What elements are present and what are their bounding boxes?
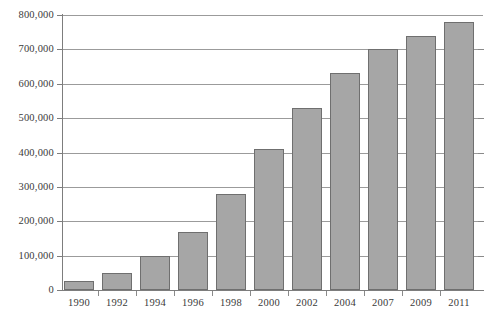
x-tick-4 <box>212 291 213 296</box>
bar-2011 <box>444 22 474 290</box>
y-tick-300000 <box>57 187 63 188</box>
bar-1998 <box>216 194 246 290</box>
y-tick-700000 <box>57 49 63 50</box>
y-axis-label-200000: 200,000 <box>0 216 54 227</box>
y-tick-right-400000 <box>478 153 484 154</box>
x-tick-10 <box>440 291 441 296</box>
bar-1990 <box>64 281 94 290</box>
bar-1994 <box>140 256 170 290</box>
y-tick-right-100000 <box>478 256 484 257</box>
y-tick-400000 <box>57 153 63 154</box>
x-axis-label-2011: 2011 <box>432 297 486 309</box>
y-axis-label-500000: 500,000 <box>0 113 54 124</box>
bar-2002 <box>292 108 322 290</box>
bar-2000 <box>254 149 284 290</box>
y-tick-800000 <box>57 15 63 16</box>
bar-2009 <box>406 36 436 290</box>
y-axis-label-0: 0 <box>0 285 54 296</box>
y-axis-label-600000: 600,000 <box>0 79 54 90</box>
x-tick-5 <box>250 291 251 296</box>
bar-2007 <box>368 49 398 290</box>
y-tick-right-600000 <box>478 84 484 85</box>
y-axis-label-100000: 100,000 <box>0 251 54 262</box>
y-tick-right-700000 <box>478 49 484 50</box>
bar-1996 <box>178 232 208 290</box>
y-tick-right-200000 <box>478 221 484 222</box>
y-axis-label-300000: 300,000 <box>0 182 54 193</box>
y-tick-100000 <box>57 256 63 257</box>
plot-area <box>62 15 483 290</box>
y-axis-label-700000: 700,000 <box>0 44 54 55</box>
x-tick-9 <box>402 291 403 296</box>
y-tick-right-300000 <box>478 187 484 188</box>
y-tick-600000 <box>57 84 63 85</box>
bar-2004 <box>330 73 360 290</box>
bar-chart-figure: 800,000 700,000 600,000 500,000 400,000 … <box>0 0 491 318</box>
x-tick-1 <box>98 291 99 296</box>
bar-1992 <box>102 273 132 290</box>
x-axis-line <box>62 290 484 291</box>
y-tick-right-500000 <box>478 118 484 119</box>
x-tick-3 <box>174 291 175 296</box>
y-tick-200000 <box>57 221 63 222</box>
y-axis-label-400000: 400,000 <box>0 148 54 159</box>
y-tick-0 <box>57 290 63 291</box>
y-axis-label-800000: 800,000 <box>0 10 54 21</box>
y-tick-500000 <box>57 118 63 119</box>
x-tick-2 <box>136 291 137 296</box>
x-tick-8 <box>364 291 365 296</box>
x-tick-6 <box>288 291 289 296</box>
x-tick-7 <box>326 291 327 296</box>
gridline-800000 <box>62 15 483 16</box>
